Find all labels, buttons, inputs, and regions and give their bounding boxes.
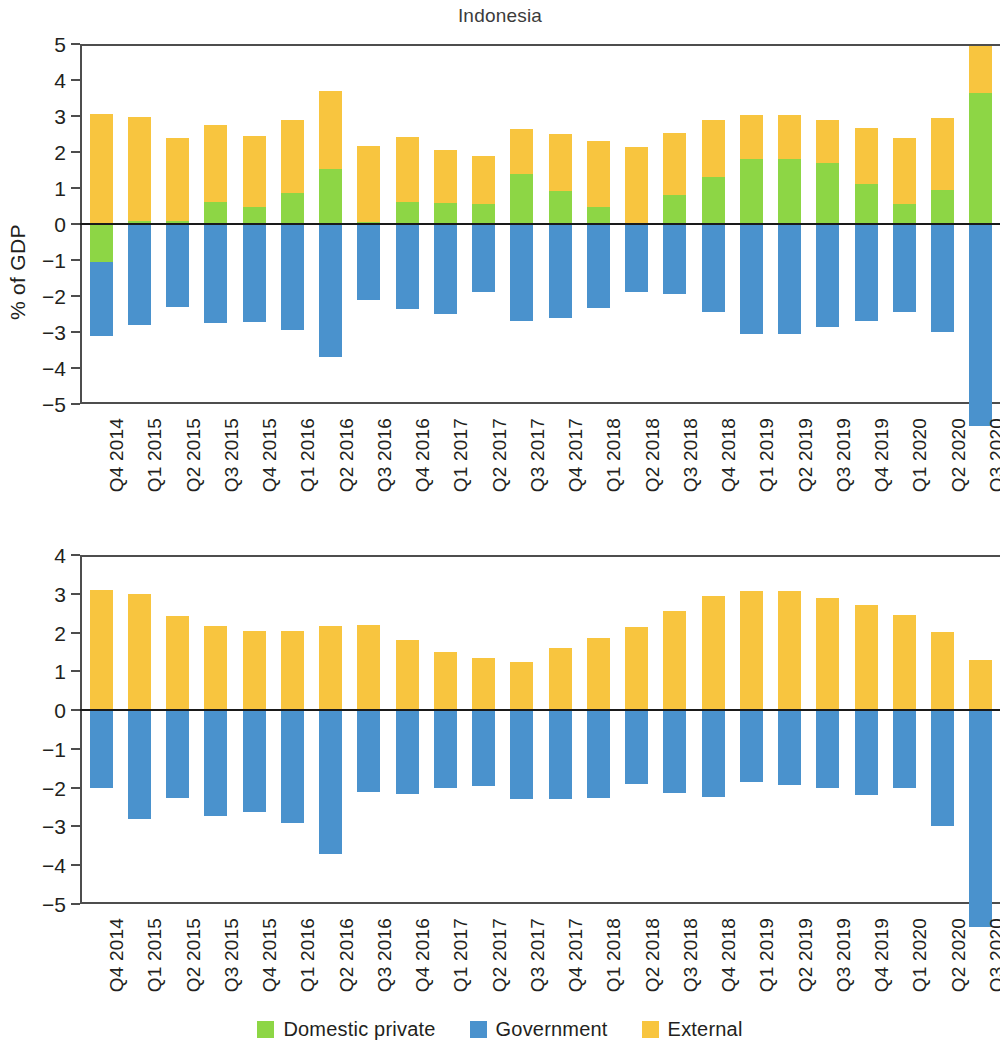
bar-column	[510, 555, 533, 904]
bar-segment	[663, 133, 686, 195]
bar-segment	[434, 652, 457, 710]
bar-segment	[396, 224, 419, 309]
x-tick-label: Q3 2017	[527, 918, 549, 992]
bar-column	[663, 555, 686, 904]
bar-segment	[396, 640, 419, 711]
bar-segment	[778, 159, 801, 224]
bar-column	[778, 555, 801, 904]
y-tick-label: 4	[54, 70, 66, 91]
bar-segment	[625, 710, 648, 784]
bar-segment	[969, 710, 992, 927]
bar-segment	[319, 710, 342, 853]
x-tick-label: Q4 2019	[871, 418, 893, 492]
chart-panel-top: % of GDP 543210−1−2−3−4−5 Q4 2014Q1 2015…	[0, 30, 1000, 525]
bar-segment	[855, 605, 878, 710]
legend-item: External	[642, 1018, 743, 1041]
bar-segment	[204, 125, 227, 202]
x-tick-label: Q4 2014	[106, 918, 128, 992]
bar-segment	[166, 138, 189, 222]
bar-segment	[778, 115, 801, 159]
bar-column	[319, 555, 342, 904]
bar-segment	[587, 710, 610, 798]
y-tick-label: 3	[54, 583, 66, 604]
y-tick-label: 5	[54, 34, 66, 55]
x-tick-label: Q4 2018	[718, 418, 740, 492]
x-tick-label: Q1 2020	[909, 918, 931, 992]
bar-column	[549, 555, 572, 904]
y-tick-label: −3	[42, 816, 66, 837]
x-tick-label: Q1 2020	[909, 418, 931, 492]
bar-segment	[204, 202, 227, 224]
y-tick-label: −1	[42, 250, 66, 271]
bar-segment	[702, 177, 725, 224]
y-tick	[71, 825, 80, 827]
bar-segment	[281, 120, 304, 193]
bar-column	[740, 555, 763, 904]
bar-segment	[663, 224, 686, 294]
y-tick-label: 2	[54, 622, 66, 643]
x-tick-label: Q2 2016	[336, 918, 358, 992]
y-tick	[71, 632, 80, 634]
plot-area-top: 543210−1−2−3−4−5	[80, 44, 1000, 404]
bar-segment	[243, 631, 266, 710]
y-tick	[71, 787, 80, 789]
bar-segment	[243, 710, 266, 812]
bar-segment	[128, 224, 151, 325]
x-axis-labels-top: Q4 2014Q1 2015Q2 2015Q3 2015Q4 2015Q1 20…	[80, 418, 1000, 518]
y-tick	[71, 864, 80, 866]
bar-column	[357, 555, 380, 904]
bar-segment	[740, 591, 763, 710]
bar-segment	[740, 159, 763, 224]
bar-segment	[969, 224, 992, 426]
bar-segment	[855, 224, 878, 321]
y-tick	[71, 670, 80, 672]
bar-column	[969, 555, 992, 904]
x-tick-label: Q3 2019	[833, 918, 855, 992]
x-tick-label: Q3 2015	[221, 918, 243, 992]
bar-segment	[281, 710, 304, 823]
bar-segment	[128, 594, 151, 710]
bar-segment	[625, 224, 648, 292]
bar-column	[816, 555, 839, 904]
y-tick	[71, 115, 80, 117]
bar-segment	[166, 616, 189, 710]
x-tick-label: Q1 2019	[756, 918, 778, 992]
x-tick-label: Q1 2015	[144, 418, 166, 492]
x-tick-label: Q3 2016	[374, 418, 396, 492]
x-tick-label: Q2 2019	[795, 918, 817, 992]
bar-segment	[969, 93, 992, 224]
figure-root: Indonesia % of GDP 543210−1−2−3−4−5 Q4 2…	[0, 0, 1000, 1053]
bar-segment	[472, 224, 495, 292]
bar-segment	[778, 710, 801, 785]
y-tick-label: −5	[42, 394, 66, 415]
x-tick-label: Q2 2018	[642, 418, 664, 492]
bar-segment	[969, 660, 992, 710]
y-tick	[71, 223, 80, 225]
x-tick-label: Q2 2018	[642, 918, 664, 992]
bar-segment	[357, 625, 380, 710]
y-tick	[71, 709, 80, 711]
legend: Domestic privateGovernmentExternal	[0, 1018, 1000, 1041]
bar-segment	[357, 146, 380, 222]
legend-item: Domestic private	[257, 1018, 435, 1041]
y-tick-label: −2	[42, 286, 66, 307]
y-tick	[71, 748, 80, 750]
bar-segment	[663, 611, 686, 710]
x-tick-label: Q1 2016	[297, 918, 319, 992]
x-tick-label: Q4 2015	[259, 918, 281, 992]
x-tick-label: Q4 2019	[871, 918, 893, 992]
x-tick-label: Q1 2016	[297, 418, 319, 492]
x-tick-label: Q4 2014	[106, 418, 128, 492]
y-tick	[71, 151, 80, 153]
x-tick-label: Q3 2017	[527, 418, 549, 492]
x-tick-label: Q2 2019	[795, 418, 817, 492]
y-tick-label: −3	[42, 322, 66, 343]
y-tick-label: −4	[42, 358, 66, 379]
bar-segment	[778, 591, 801, 710]
bar-segment	[90, 224, 113, 262]
bar-segment	[281, 224, 304, 330]
bar-segment	[90, 262, 113, 336]
bar-segment	[549, 224, 572, 318]
bar-segment	[90, 590, 113, 710]
bar-segment	[510, 129, 533, 174]
